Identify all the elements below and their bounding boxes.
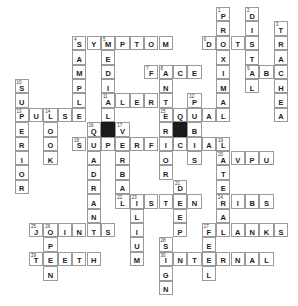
crossword-cell[interactable]: 5M	[101, 36, 115, 50]
crossword-cell[interactable]: E	[216, 180, 230, 194]
crossword-cell[interactable]: D	[87, 165, 101, 179]
crossword-cell[interactable]: R	[274, 36, 288, 50]
crossword-cell[interactable]: R	[87, 180, 101, 194]
crossword-cell[interactable]: 17V	[115, 122, 129, 136]
crossword-cell[interactable]: E	[173, 194, 187, 208]
crossword-cell[interactable]: I	[216, 65, 230, 79]
crossword-cell[interactable]: O	[43, 137, 57, 151]
crossword-cell[interactable]: N	[187, 194, 201, 208]
crossword-cell[interactable]: A	[202, 108, 216, 122]
crossword-cell[interactable]: 9A	[245, 65, 259, 79]
crossword-cell[interactable]: I	[58, 223, 72, 237]
crossword-cell[interactable]: B	[187, 122, 201, 136]
crossword-cell[interactable]: E	[187, 65, 201, 79]
crossword-cell[interactable]: Y	[87, 36, 101, 50]
crossword-cell[interactable]: E	[58, 252, 72, 266]
crossword-cell[interactable]: E	[101, 50, 115, 64]
crossword-cell[interactable]: R	[15, 180, 29, 194]
crossword-cell[interactable]: N	[159, 79, 173, 93]
crossword-cell[interactable]: T	[187, 252, 201, 266]
crossword-cell[interactable]: B	[259, 65, 273, 79]
crossword-cell[interactable]: T	[245, 50, 259, 64]
crossword-cell[interactable]: F	[144, 137, 158, 151]
crossword-cell[interactable]: A	[274, 108, 288, 122]
crossword-cell[interactable]: H	[274, 79, 288, 93]
crossword-cell[interactable]: T	[87, 223, 101, 237]
crossword-cell[interactable]: A	[87, 194, 101, 208]
crossword-cell[interactable]: P	[101, 137, 115, 151]
crossword-cell[interactable]: S	[259, 194, 273, 208]
crossword-cell[interactable]: P	[173, 223, 187, 237]
crossword-cell[interactable]: N	[159, 281, 173, 295]
crossword-cell[interactable]: 25J	[29, 223, 43, 237]
crossword-cell[interactable]: A	[72, 50, 86, 64]
crossword-cell[interactable]: N	[173, 252, 187, 266]
crossword-cell[interactable]: I	[101, 79, 115, 93]
crossword-cell[interactable]: E	[72, 108, 86, 122]
crossword-cell[interactable]: T	[159, 93, 173, 107]
crossword-cell[interactable]: A	[87, 151, 101, 165]
crossword-cell[interactable]: I	[130, 223, 144, 237]
crossword-cell[interactable]: O	[15, 165, 29, 179]
crossword-cell[interactable]: A	[216, 93, 230, 107]
crossword-cell[interactable]: O	[216, 36, 230, 50]
crossword-cell[interactable]: 28S	[159, 237, 173, 251]
crossword-cell[interactable]: A	[202, 137, 216, 151]
crossword-cell[interactable]: Q	[173, 108, 187, 122]
crossword-cell[interactable]: A	[216, 209, 230, 223]
crossword-cell[interactable]: T	[130, 36, 144, 50]
crossword-cell[interactable]: 8A	[159, 65, 173, 79]
crossword-cell[interactable]: T	[72, 252, 86, 266]
crossword-cell[interactable]: E	[202, 237, 216, 251]
crossword-cell[interactable]: S	[101, 223, 115, 237]
crossword-cell[interactable]: C	[274, 65, 288, 79]
crossword-cell[interactable]: I	[15, 151, 29, 165]
crossword-cell[interactable]: E	[202, 252, 216, 266]
crossword-cell[interactable]: B	[245, 194, 259, 208]
crossword-cell[interactable]: N	[43, 266, 57, 280]
crossword-cell[interactable]: 22L	[115, 194, 129, 208]
crossword-cell[interactable]: R	[216, 21, 230, 35]
crossword-cell[interactable]: E	[15, 122, 29, 136]
crossword-cell[interactable]: 15E	[159, 108, 173, 122]
crossword-cell[interactable]: R	[130, 137, 144, 151]
crossword-cell[interactable]: G	[159, 266, 173, 280]
crossword-cell[interactable]: N	[245, 223, 259, 237]
crossword-cell[interactable]: L	[101, 108, 115, 122]
crossword-cell[interactable]: 29T	[29, 252, 43, 266]
crossword-cell[interactable]: M	[72, 65, 86, 79]
crossword-cell[interactable]: 27F	[202, 223, 216, 237]
crossword-cell[interactable]: U	[29, 108, 43, 122]
crossword-cell[interactable]: 3T	[274, 21, 288, 35]
crossword-cell[interactable]: 20A	[216, 151, 230, 165]
crossword-cell[interactable]: U	[187, 108, 201, 122]
crossword-cell[interactable]: M	[130, 252, 144, 266]
crossword-cell[interactable]: 6D	[202, 36, 216, 50]
crossword-cell[interactable]: 10S	[15, 79, 29, 93]
crossword-cell[interactable]: 30I	[159, 252, 173, 266]
crossword-cell[interactable]: O	[144, 36, 158, 50]
crossword-cell[interactable]: 13P	[15, 108, 29, 122]
crossword-cell[interactable]: O	[159, 151, 173, 165]
crossword-cell[interactable]: M	[216, 79, 230, 93]
crossword-cell[interactable]: I	[187, 137, 201, 151]
crossword-cell[interactable]: P	[72, 79, 86, 93]
crossword-cell[interactable]: N	[87, 209, 101, 223]
crossword-cell[interactable]: X	[216, 50, 230, 64]
crossword-cell[interactable]: 18S	[72, 137, 86, 151]
crossword-cell[interactable]: L	[115, 93, 129, 107]
crossword-cell[interactable]: T	[159, 194, 173, 208]
crossword-cell[interactable]: A	[274, 50, 288, 64]
crossword-cell[interactable]: E	[130, 93, 144, 107]
crossword-cell[interactable]: L	[216, 223, 230, 237]
crossword-cell[interactable]: S	[274, 223, 288, 237]
crossword-cell[interactable]: U	[15, 93, 29, 107]
crossword-cell[interactable]: L	[202, 266, 216, 280]
crossword-cell[interactable]: P	[43, 237, 57, 251]
crossword-cell[interactable]: E	[115, 137, 129, 151]
crossword-cell[interactable]: I	[245, 21, 259, 35]
crossword-cell[interactable]: A	[115, 180, 129, 194]
crossword-cell[interactable]: R	[115, 151, 129, 165]
crossword-cell[interactable]: 4S	[72, 36, 86, 50]
crossword-cell[interactable]: L	[259, 252, 273, 266]
